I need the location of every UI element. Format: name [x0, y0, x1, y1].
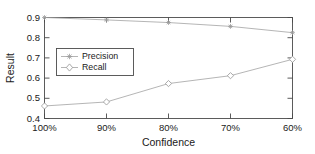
- chart-figure: 0.4 0.5 0.6 0.7 0.8 0.9 100% 90% 80% 70%…: [0, 0, 315, 154]
- data-point-marker: [290, 30, 295, 35]
- x-tick-labels: 100% 90% 80% 70% 60%: [32, 122, 302, 133]
- y-tick-label: 0.6: [27, 72, 40, 83]
- data-point-marker: [228, 24, 233, 29]
- x-tick-label: 90%: [97, 122, 117, 133]
- legend-label-precision: Precision: [82, 51, 118, 61]
- data-point-marker: [42, 15, 47, 20]
- y-tick-labels: 0.4 0.5 0.6 0.7 0.8 0.9: [27, 12, 40, 124]
- legend-label-recall: Recall: [82, 62, 106, 72]
- x-tick-label: 70%: [221, 122, 241, 133]
- y-tick-label: 0.7: [27, 52, 40, 63]
- x-tick-label: 80%: [159, 122, 179, 133]
- y-tick-label: 0.8: [27, 32, 40, 43]
- y-tick-label: 0.5: [27, 92, 40, 103]
- data-point-marker: [104, 18, 109, 23]
- data-point-marker: [41, 103, 47, 109]
- x-axis-title: Confidence: [142, 136, 195, 148]
- data-point-marker: [227, 73, 233, 79]
- data-point-marker: [103, 99, 109, 105]
- y-tick-label: 0.9: [27, 12, 40, 23]
- x-tick-label: 60%: [283, 122, 303, 133]
- chart-legend[interactable]: Precision Recall: [57, 49, 134, 76]
- data-point-marker: [166, 20, 171, 25]
- data-point-marker: [165, 80, 171, 86]
- x-tick-label: 100%: [32, 122, 57, 133]
- asterisk-icon: [67, 54, 73, 59]
- y-axis-title: Result: [4, 53, 16, 83]
- precision-recall-line-chart: 0.4 0.5 0.6 0.7 0.8 0.9 100% 90% 80% 70%…: [0, 0, 315, 154]
- data-point-marker: [289, 56, 295, 62]
